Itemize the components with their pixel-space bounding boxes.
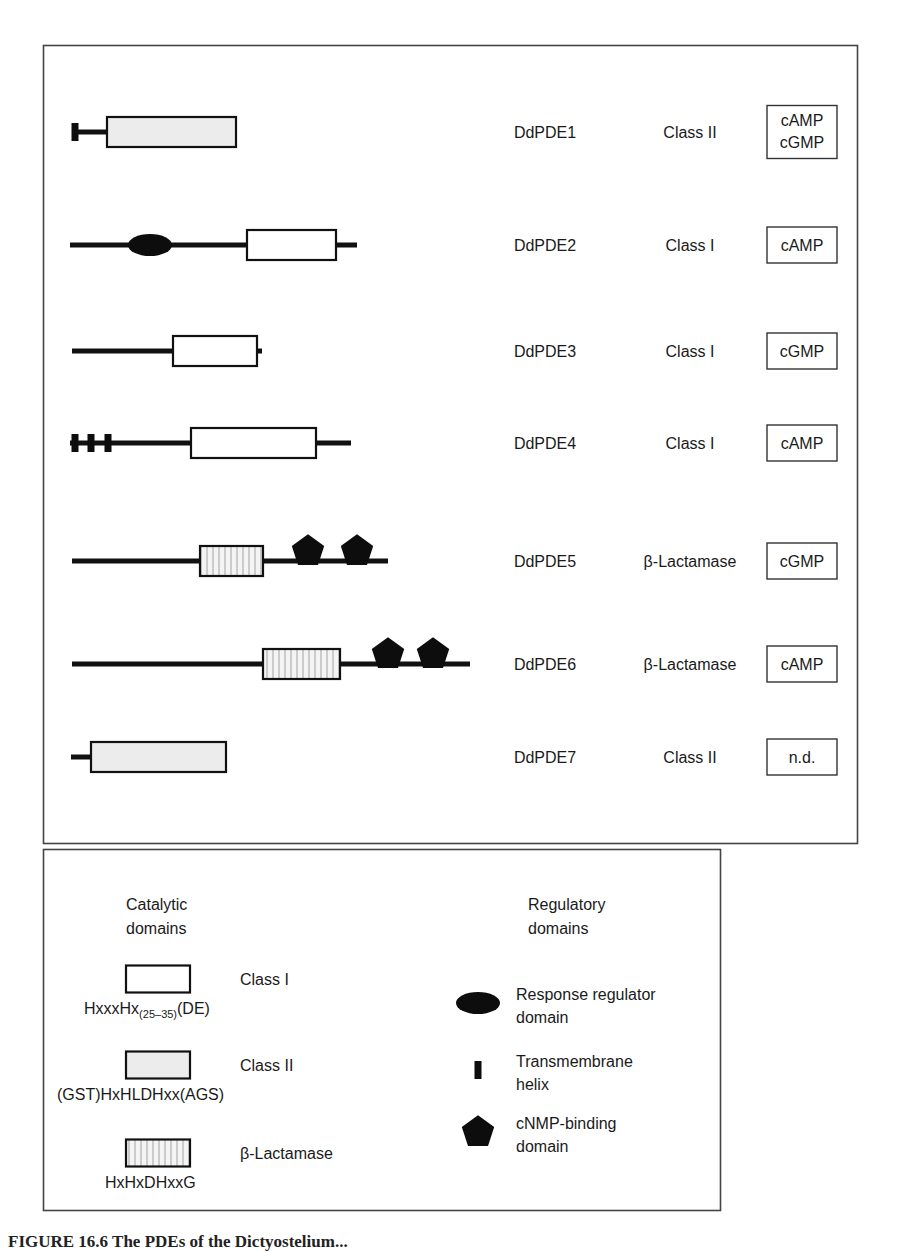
transmembrane-helix-icon	[475, 1061, 482, 1079]
legend-swatch-class1	[126, 966, 190, 993]
catalytic-domain-class1	[173, 336, 257, 366]
regulatory-legend-title: domains	[528, 920, 588, 937]
transmembrane-helix-icon	[72, 123, 79, 141]
legend-regulatory-label: domain	[516, 1009, 568, 1026]
protein-row-ddpde6: DdPDE6β-LactamasecAMP	[72, 637, 837, 682]
legend-catalytic-class2: Class II(GST)HxHLDHxx(AGS)	[57, 1052, 293, 1104]
catalytic-class: Class II	[663, 749, 716, 766]
legend-class-label: Class I	[240, 971, 289, 988]
legend-regulatory-tm-helix: Transmembranehelix	[475, 1053, 633, 1093]
catalytic-class: Class I	[666, 435, 715, 452]
legend-regulatory-response-regulator: Response regulatordomain	[456, 986, 656, 1026]
legend-catalytic-beta-lactamase: β-LactamaseHxHxDHxxG	[105, 1140, 333, 1192]
legend-swatch-beta-lactamase	[126, 1140, 190, 1167]
protein-row-ddpde2: DdPDE2Class IcAMP	[70, 227, 837, 263]
substrate-badge: cAMP	[767, 425, 837, 461]
catalytic-legend-title: domains	[126, 920, 186, 937]
cnmp-binding-domain-icon	[292, 534, 324, 565]
substrate-label: cAMP	[781, 112, 824, 129]
transmembrane-helix-icon	[72, 434, 79, 452]
legend-regulatory-cnmp-binding: cNMP-bindingdomain	[462, 1115, 617, 1155]
catalytic-domain-class1	[191, 428, 316, 458]
catalytic-domain-class2	[107, 117, 236, 147]
catalytic-class: Class II	[663, 124, 716, 141]
consensus-motif: HxxxHx(25–35)(DE)	[84, 1000, 210, 1020]
protein-name: DdPDE5	[514, 553, 576, 570]
legend-swatch-class2	[126, 1052, 190, 1079]
cnmp-binding-domain-icon	[462, 1115, 494, 1146]
legend: CatalyticdomainsRegulatorydomainsClass I…	[57, 896, 656, 1191]
substrate-badge: cGMP	[767, 543, 837, 579]
legend-regulatory-label: Transmembrane	[516, 1053, 633, 1070]
cnmp-binding-domain-icon	[372, 637, 404, 668]
figure-caption: FIGURE 16.6 The PDEs of the Dictyosteliu…	[8, 1232, 348, 1252]
substrate-label: cGMP	[780, 343, 824, 360]
legend-catalytic-class1: Class IHxxxHx(25–35)(DE)	[84, 966, 289, 1021]
legend-class-label: Class II	[240, 1057, 293, 1074]
catalytic-class: β-Lactamase	[644, 656, 737, 673]
legend-regulatory-label: domain	[516, 1138, 568, 1155]
substrate-label: cGMP	[780, 134, 824, 151]
legend-class-label: β-Lactamase	[240, 1145, 333, 1162]
transmembrane-helix-icon	[105, 434, 112, 452]
cnmp-binding-domain-icon	[341, 534, 373, 565]
catalytic-legend-title: Catalytic	[126, 896, 187, 913]
protein-row-ddpde7: DdPDE7Class IIn.d.	[71, 739, 837, 775]
catalytic-domain-class2	[91, 742, 226, 772]
substrate-label: cAMP	[781, 237, 824, 254]
substrate-badge: n.d.	[767, 739, 837, 775]
catalytic-domain-class1	[247, 230, 336, 260]
catalytic-class: Class I	[666, 343, 715, 360]
response-regulator-icon	[128, 234, 172, 256]
protein-row-ddpde1: DdPDE1Class IIcAMPcGMP	[72, 106, 838, 159]
protein-name: DdPDE2	[514, 237, 576, 254]
substrate-badge: cAMP	[767, 646, 837, 682]
protein-row-ddpde3: DdPDE3Class IcGMP	[72, 333, 837, 369]
protein-rows: DdPDE1Class IIcAMPcGMPDdPDE2Class IcAMPD…	[70, 106, 837, 776]
substrate-label: cAMP	[781, 435, 824, 452]
consensus-motif: HxHxDHxxG	[105, 1174, 196, 1191]
protein-name: DdPDE7	[514, 749, 576, 766]
protein-name: DdPDE3	[514, 343, 576, 360]
catalytic-domain-beta-lactamase	[263, 649, 340, 679]
catalytic-class: Class I	[666, 237, 715, 254]
protein-name: DdPDE6	[514, 656, 576, 673]
substrate-badge: cAMP	[767, 227, 837, 263]
substrate-badge: cAMPcGMP	[767, 106, 837, 159]
catalytic-domain-beta-lactamase	[200, 546, 263, 576]
protein-name: DdPDE4	[514, 435, 576, 452]
cnmp-binding-domain-icon	[417, 637, 449, 668]
catalytic-class: β-Lactamase	[644, 553, 737, 570]
protein-row-ddpde4: DdPDE4Class IcAMP	[70, 425, 837, 461]
substrate-label: cGMP	[780, 553, 824, 570]
legend-regulatory-label: helix	[516, 1076, 549, 1093]
regulatory-legend-title: Regulatory	[528, 896, 605, 913]
protein-row-ddpde5: DdPDE5β-LactamasecGMP	[72, 534, 837, 579]
consensus-motif: (GST)HxHLDHxx(AGS)	[57, 1086, 224, 1103]
legend-regulatory-label: Response regulator	[516, 986, 656, 1003]
transmembrane-helix-icon	[88, 434, 95, 452]
substrate-label: n.d.	[789, 749, 816, 766]
protein-name: DdPDE1	[514, 124, 576, 141]
legend-regulatory-label: cNMP-binding	[516, 1115, 616, 1132]
response-regulator-icon	[456, 992, 500, 1014]
substrate-label: cAMP	[781, 656, 824, 673]
substrate-badge: cGMP	[767, 333, 837, 369]
